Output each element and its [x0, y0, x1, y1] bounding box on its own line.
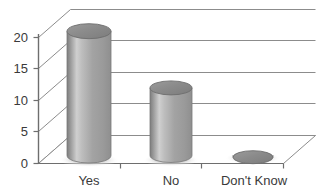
- y-tick-label-15: 15: [2, 62, 28, 75]
- bar-no-top: [150, 81, 192, 95]
- bar-yes[interactable]: [59, 24, 119, 167]
- y-axis-ticks: [34, 38, 39, 164]
- y-tick-label-10: 10: [2, 94, 28, 107]
- bar-dont-know-top: [233, 151, 273, 164]
- y-tick-label-0: 0: [2, 157, 28, 170]
- x-tick-label-no: No: [136, 174, 206, 188]
- bar-no-body: [150, 88, 192, 163]
- y-tick-label-5: 5: [2, 125, 28, 138]
- chart-container: 20 15 10 5 0 Yes No Don't Know: [0, 0, 330, 196]
- x-tick-label-dont-know: Don't Know: [208, 174, 300, 188]
- bar-yes-top: [67, 24, 111, 39]
- bar-yes-body: [67, 31, 111, 163]
- y-tick-label-20: 20: [2, 31, 28, 44]
- chart-plot-area: [0, 0, 330, 196]
- bar-no[interactable]: [143, 81, 199, 167]
- x-tick-label-yes: Yes: [54, 174, 124, 188]
